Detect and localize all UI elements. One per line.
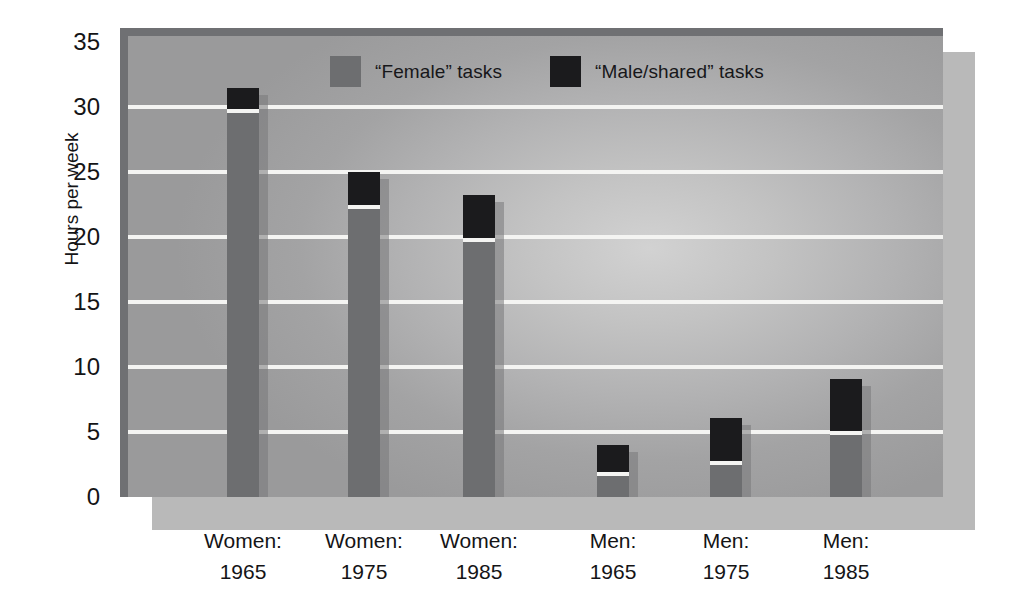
legend-label-female: “Female” tasks — [375, 61, 502, 83]
plot-area — [128, 36, 943, 497]
x-tick-label-women-1985: Women:1985 — [404, 525, 554, 587]
bar-segment-female[interactable] — [348, 209, 380, 497]
bar-segment-female[interactable] — [227, 113, 259, 497]
y-tick-label-35: 35 — [38, 28, 100, 56]
legend-label-male-shared: “Male/shared” tasks — [595, 61, 764, 83]
bar-segment-male-shared[interactable] — [710, 418, 742, 464]
legend-entry-male-shared: “Male/shared” tasks — [550, 56, 764, 87]
chart-figure: “Female” tasks “Male/shared” tasks Hours… — [0, 0, 1013, 611]
bar-shadow — [380, 179, 389, 497]
bar-segment-male-shared[interactable] — [597, 445, 629, 474]
bar-shadow — [862, 386, 871, 497]
y-tick-label-15: 15 — [38, 288, 100, 316]
bar-segment-male-shared[interactable] — [348, 172, 380, 207]
x-tick-line1: Women: — [204, 529, 282, 552]
y-tick-label-30: 30 — [38, 93, 100, 121]
y-tick-label-25: 25 — [38, 158, 100, 186]
bar-segment-female[interactable] — [463, 242, 495, 497]
bar-segment-male-shared[interactable] — [463, 195, 495, 239]
x-tick-line1: Men: — [703, 529, 750, 552]
bar-men--1985[interactable] — [830, 379, 862, 497]
legend-swatch-female-icon — [330, 56, 361, 87]
bar-men--1975[interactable] — [710, 418, 742, 497]
bar-shadow — [742, 425, 751, 497]
bar-segment-female[interactable] — [597, 476, 629, 497]
chart-legend: “Female” tasks “Male/shared” tasks — [330, 56, 764, 87]
bar-segment-male-shared[interactable] — [830, 379, 862, 434]
bar-shadow — [495, 202, 504, 497]
y-tick-label-10: 10 — [38, 353, 100, 381]
bar-segment-female[interactable] — [710, 465, 742, 497]
bar-segment-female[interactable] — [830, 435, 862, 497]
x-tick-line2: 1985 — [771, 556, 921, 587]
y-tick-label-0: 0 — [38, 483, 100, 511]
y-tick-label-5: 5 — [38, 418, 100, 446]
bar-women--1975[interactable] — [348, 172, 380, 497]
legend-entry-female: “Female” tasks — [330, 56, 502, 87]
legend-swatch-male-shared-icon — [550, 56, 581, 87]
x-tick-line1: Men: — [823, 529, 870, 552]
x-tick-line1: Women: — [440, 529, 518, 552]
y-tick-label-20: 20 — [38, 223, 100, 251]
bar-shadow — [259, 95, 268, 498]
bar-women--1965[interactable] — [227, 88, 259, 498]
bar-shadow — [629, 452, 638, 497]
x-tick-line2: 1985 — [404, 556, 554, 587]
x-tick-line1: Women: — [325, 529, 403, 552]
x-tick-label-men-1985: Men:1985 — [771, 525, 921, 587]
bar-women--1985[interactable] — [463, 195, 495, 497]
bar-men--1965[interactable] — [597, 445, 629, 497]
bar-segment-male-shared[interactable] — [227, 88, 259, 111]
y-axis: Hours per week 35302520151050 — [38, 0, 100, 611]
x-tick-line1: Men: — [590, 529, 637, 552]
